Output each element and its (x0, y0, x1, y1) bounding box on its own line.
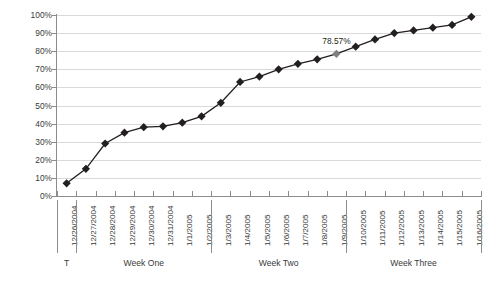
data-series-layer (0, 0, 489, 285)
y-axis-tick-mark (52, 51, 57, 52)
y-axis-tick-mark (52, 124, 57, 125)
series-line (67, 17, 472, 184)
data-point-marker[interactable] (294, 60, 302, 68)
data-point-marker[interactable] (313, 55, 321, 63)
cumulative-percentage-chart: Cumulative percentage 0%10%20%30%40%50%6… (0, 0, 489, 285)
y-axis-tick-mark (52, 196, 57, 197)
highlight-value-annotation: 78.57% (322, 36, 350, 46)
data-point-marker[interactable] (197, 112, 205, 120)
y-axis-tick-mark (52, 69, 57, 70)
data-point-marker[interactable] (371, 35, 379, 43)
data-point-marker[interactable] (467, 13, 475, 21)
data-point-marker[interactable] (429, 24, 437, 32)
data-point-marker[interactable] (120, 129, 128, 137)
y-axis-tick-mark (52, 178, 57, 179)
data-point-marker[interactable] (275, 65, 283, 73)
data-point-marker[interactable] (390, 29, 398, 37)
data-point-marker[interactable] (448, 21, 456, 29)
data-point-marker[interactable] (140, 123, 148, 131)
y-axis-tick-mark (52, 33, 57, 34)
y-axis-tick-mark (52, 160, 57, 161)
data-point-marker[interactable] (255, 72, 263, 80)
data-point-marker[interactable] (409, 26, 417, 34)
y-axis-tick-mark (52, 15, 57, 16)
y-axis-tick-mark (52, 106, 57, 107)
data-point-marker[interactable] (159, 122, 167, 130)
y-axis-tick-mark (52, 87, 57, 88)
y-axis-tick-mark (52, 142, 57, 143)
data-point-marker[interactable] (178, 119, 186, 127)
data-point-marker-highlighted[interactable] (332, 50, 340, 58)
data-point-marker[interactable] (352, 43, 360, 51)
